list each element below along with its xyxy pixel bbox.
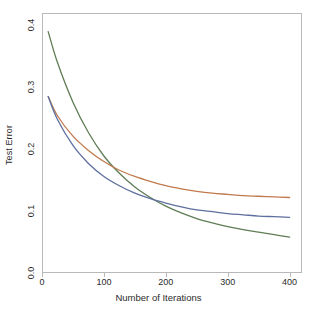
- x-tick-label: 200: [146, 277, 186, 287]
- chart-container: Test Error 0.00.10.20.30.4 0100200300400…: [0, 0, 317, 312]
- y-tick-label-text: 0.3: [26, 81, 36, 94]
- x-axis-title: Number of Iterations: [0, 292, 317, 303]
- x-tick-mark: [166, 273, 167, 277]
- plot-lines: [42, 13, 302, 273]
- y-axis-title-text: Test Error: [4, 125, 14, 165]
- y-tick-label: 0.2: [20, 143, 42, 155]
- y-tick-label-text: 0.1: [26, 205, 36, 218]
- y-axis-title: Test Error: [0, 100, 18, 190]
- x-tick-label: 400: [270, 277, 310, 287]
- x-axis-title-text: Number of Iterations: [115, 292, 201, 303]
- x-tick-label: 100: [84, 277, 124, 287]
- line-green-curve: [48, 32, 289, 238]
- x-tick-mark: [290, 273, 291, 277]
- x-tick-mark: [42, 273, 43, 277]
- x-tick-label: 0: [22, 277, 62, 287]
- line-blue-curve: [48, 97, 289, 218]
- x-tick-mark: [104, 273, 105, 277]
- x-tick-label: 300: [208, 277, 248, 287]
- y-tick-label: 0.1: [20, 205, 42, 217]
- y-tick-label-text: 0.2: [26, 143, 36, 156]
- x-tick-mark: [228, 273, 229, 277]
- y-tick-label-text: 0.4: [26, 19, 36, 32]
- y-tick-label: 0.3: [20, 81, 42, 93]
- line-orange-curve: [48, 97, 289, 198]
- y-tick-label: 0.4: [20, 19, 42, 31]
